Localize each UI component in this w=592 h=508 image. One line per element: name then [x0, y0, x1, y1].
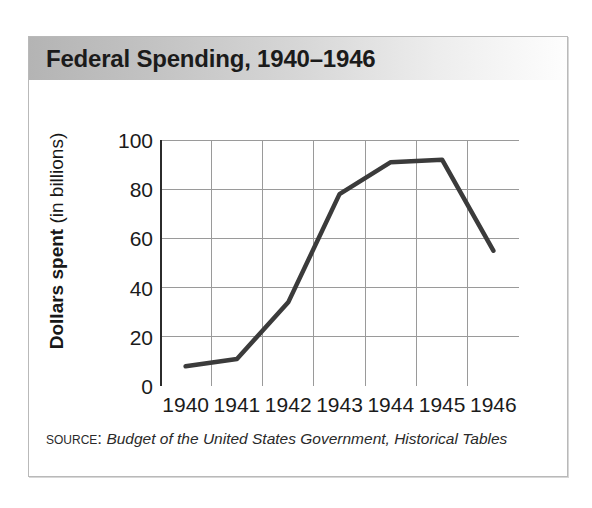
- y-tick-label: 80: [130, 179, 153, 200]
- data-series-line: [186, 160, 494, 367]
- x-tick-label: 1942: [265, 393, 312, 417]
- plot-grid-area: [160, 140, 519, 386]
- source-label: Source:: [46, 429, 102, 448]
- x-tick-label: 1940: [162, 393, 209, 417]
- source-note: Source: Budget of the United States Gove…: [46, 428, 516, 450]
- y-tick-label: 0: [141, 376, 153, 397]
- line-chart-svg: [160, 140, 519, 386]
- x-tick-label: 1946: [470, 393, 517, 417]
- x-tick-label: 1943: [316, 393, 363, 417]
- page-title: Federal Spending, 1940–1946: [46, 45, 375, 73]
- x-tick-label: 1944: [367, 393, 414, 417]
- y-axis-title-regular: (in billions): [46, 133, 67, 229]
- y-tick-label: 20: [130, 326, 153, 347]
- chart-figure: Federal Spending, 1940–1946 Dollars spen…: [28, 36, 568, 477]
- y-axis-title-bold: Dollars spent: [46, 229, 67, 349]
- y-tick-label: 100: [118, 130, 153, 151]
- y-tick-label: 60: [130, 228, 153, 249]
- y-axis-tick-labels: 020406080100: [101, 140, 153, 386]
- x-axis-tick-labels: 1940194119421943194419451946: [160, 393, 519, 421]
- y-tick-label: 40: [130, 277, 153, 298]
- plot-wrapper: Dollars spent (in billions) 020406080100…: [29, 80, 567, 478]
- chart-title-bar: Federal Spending, 1940–1946: [29, 37, 567, 80]
- y-axis-title: Dollars spent (in billions): [46, 121, 68, 361]
- x-tick-label: 1941: [214, 393, 261, 417]
- source-title: Budget of the United States Government, …: [106, 430, 507, 447]
- x-tick-label: 1945: [419, 393, 466, 417]
